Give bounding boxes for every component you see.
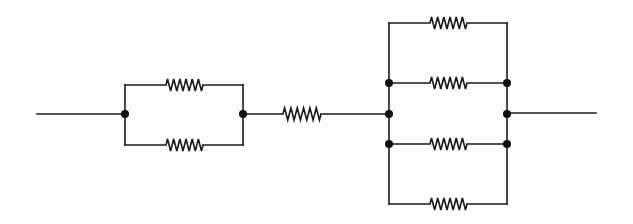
- resistor-icon: [166, 79, 203, 91]
- junction-node: [121, 110, 129, 118]
- resistor-icon: [430, 77, 467, 89]
- resistor-icon: [430, 138, 467, 150]
- junction-node: [503, 110, 511, 118]
- resistor-icon: [430, 198, 467, 210]
- junction-node: [503, 79, 511, 87]
- circuit-diagram: [0, 0, 633, 224]
- junction-node: [239, 110, 247, 118]
- junction-node: [385, 140, 393, 148]
- junction-node: [385, 110, 393, 118]
- resistor-icon: [430, 17, 467, 29]
- resistor-icon: [283, 108, 321, 120]
- resistor-network-svg: [0, 0, 633, 224]
- resistor-icon: [166, 139, 203, 151]
- junction-node: [385, 79, 393, 87]
- junction-node: [503, 140, 511, 148]
